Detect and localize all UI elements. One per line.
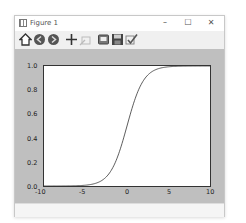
x-tick-label: 5: [167, 188, 171, 196]
save-floppy-icon: [111, 33, 124, 46]
zoom-button[interactable]: [79, 33, 92, 46]
y-tick-label: 1.0: [27, 62, 37, 70]
x-tick-label: -10: [35, 188, 46, 196]
y-tick-label: 0.8: [27, 86, 37, 94]
y-tick-label: 0.4: [27, 135, 37, 143]
forward-button[interactable]: [47, 33, 60, 46]
status-bar: [15, 203, 224, 217]
forward-arrow-icon: [47, 33, 60, 46]
window-title: Figure 1: [30, 19, 58, 27]
check-edit-icon: [125, 33, 138, 46]
plot-axes[interactable]: [43, 65, 211, 187]
pan-button[interactable]: [65, 33, 78, 46]
app-icon: [19, 19, 27, 27]
back-arrow-icon: [33, 33, 46, 46]
home-button[interactable]: [19, 33, 32, 46]
edit-axis-button[interactable]: [125, 33, 138, 46]
home-icon: [19, 33, 32, 46]
sigmoid-line: [44, 66, 210, 186]
minimize-button[interactable]: –: [156, 17, 174, 29]
subplots-icon: [97, 33, 110, 46]
maximize-button[interactable]: ☐: [179, 17, 197, 29]
x-tick-label: 0: [125, 188, 129, 196]
toolbar: [15, 31, 224, 49]
x-tick-label: 10: [206, 188, 214, 196]
x-tick-label: -5: [79, 188, 85, 196]
close-button[interactable]: ✕: [202, 17, 220, 29]
figure-canvas[interactable]: 1.0 0.8 0.6 0.4 0.2 0.0 -10 -5 0 5 10: [15, 49, 224, 203]
back-button[interactable]: [33, 33, 46, 46]
y-tick-label: 0.2: [27, 159, 37, 167]
figure-window: Figure 1 – ☐ ✕: [14, 15, 225, 217]
y-tick-label: 0.6: [27, 110, 37, 118]
zoom-rect-icon: [79, 33, 92, 46]
save-button[interactable]: [111, 33, 124, 46]
configure-subplots-button[interactable]: [97, 33, 110, 46]
title-bar[interactable]: Figure 1 – ☐ ✕: [15, 16, 224, 31]
pan-move-icon: [65, 33, 78, 46]
